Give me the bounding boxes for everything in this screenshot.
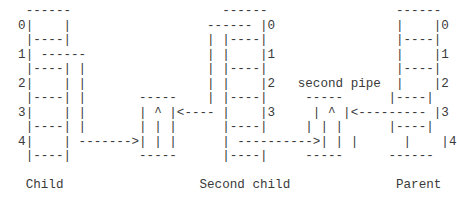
diagram-line-separator-2: |----| | ----- | |----| ----- |----| xyxy=(3,91,456,106)
diagram-line-stack-labels: Child Second child Parent xyxy=(3,178,456,193)
diagram-line-separator-3: |----| | | | | |----| | | | |----| xyxy=(3,120,456,135)
diagram-line-separator-0: |----| | |----| |----| xyxy=(3,33,456,48)
diagram-line-slot-2: 2| | | | | |2 second pipe | |2 xyxy=(3,77,456,92)
diagram-line-slot-4: 4| | ------->| | | | ---------->| | | | … xyxy=(3,135,456,150)
diagram-line-separator-1: |----| | | |----| |----| xyxy=(3,62,456,77)
diagram-line-top-borders: ------ ------ ------ xyxy=(3,4,456,19)
ascii-pipe-diagram: ------ ------ ------ 0| | ------ |0 | |0… xyxy=(3,4,456,193)
diagram-line-slot-1: 1| ------ | | |1 | |1 xyxy=(3,48,456,63)
diagram-line-bottom-borders: |----| ----- |----| ----- ------ xyxy=(3,149,456,164)
diagram-line-slot-3: 3| | | | ^ |<---- | |3 | ^ |<--------- |… xyxy=(3,106,456,121)
diagram-line-slot-0: 0| | ------ |0 | |0 xyxy=(3,19,456,34)
diagram-line-spacer xyxy=(3,164,456,179)
